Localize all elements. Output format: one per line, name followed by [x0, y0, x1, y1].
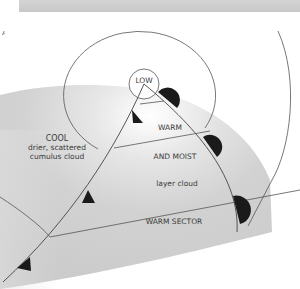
depression-diagram: LOW COOL drier, scattered cumulus cloud … [0, 0, 300, 289]
low-label: LOW [135, 76, 153, 85]
warm-sector-label: WARM SECTOR [146, 217, 203, 226]
and-moist-label: AND MOIST [154, 152, 197, 161]
cool-desc-line1: drier, scattered [28, 143, 86, 152]
cool-title-label: COOL [46, 134, 69, 143]
warm-label: WARM [158, 123, 182, 132]
edge-mark-icon [2, 31, 5, 35]
layer-cloud-label: layer cloud [156, 179, 198, 188]
cool-desc-line2: cumulus cloud [30, 152, 85, 161]
